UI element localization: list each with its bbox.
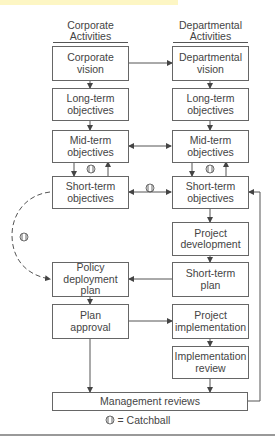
box-project-implementation: Project implementation [172, 304, 249, 339]
box-corporate-short-term-objectives: Short-term objectives [52, 176, 129, 209]
box-label: Plan approval [68, 310, 113, 333]
box-corporate-long-term-objectives: Long-term objectives [52, 88, 129, 121]
box-corporate-mid-term-objectives: Mid-term objectives [52, 130, 129, 163]
box-departmental-vision: Departmental vision [172, 46, 249, 81]
box-label: Implementation review [173, 351, 248, 374]
box-project-development: Project development [172, 222, 249, 256]
box-corporate-vision: Corporate vision [52, 46, 129, 81]
box-label: Policy deployment plan [56, 262, 126, 297]
box-label: Mid-term objectives [61, 135, 121, 158]
box-label: Short-term objectives [180, 181, 242, 204]
legend-text: = Catchball [118, 414, 171, 426]
box-departmental-short-term-objectives: Short-term objectives [172, 176, 249, 209]
box-short-term-plan: Short-term plan [172, 262, 249, 297]
box-departmental-mid-term-objectives: Mid-term objectives [172, 130, 249, 163]
box-label: Long-term objectives [61, 93, 121, 116]
box-label: Management reviews [100, 396, 200, 408]
box-implementation-review: Implementation review [172, 346, 249, 379]
box-policy-deployment-plan: Policy deployment plan [52, 262, 129, 297]
box-plan-approval: Plan approval [52, 304, 129, 339]
bottom-rule [0, 434, 275, 436]
box-label: Project implementation [173, 310, 248, 333]
box-label: Long-term objectives [181, 93, 241, 116]
box-departmental-long-term-objectives: Long-term objectives [172, 88, 249, 121]
box-label: Departmental vision [174, 52, 248, 75]
box-label: Short-term plan [182, 268, 240, 291]
box-label: Mid-term objectives [181, 135, 241, 158]
box-label: Project development [175, 228, 247, 251]
box-label: Short-term objectives [60, 181, 122, 204]
catchball-icon [105, 415, 115, 425]
legend: = Catchball [0, 414, 275, 426]
box-label: Corporate vision [63, 52, 118, 75]
box-management-reviews: Management reviews [52, 392, 248, 411]
